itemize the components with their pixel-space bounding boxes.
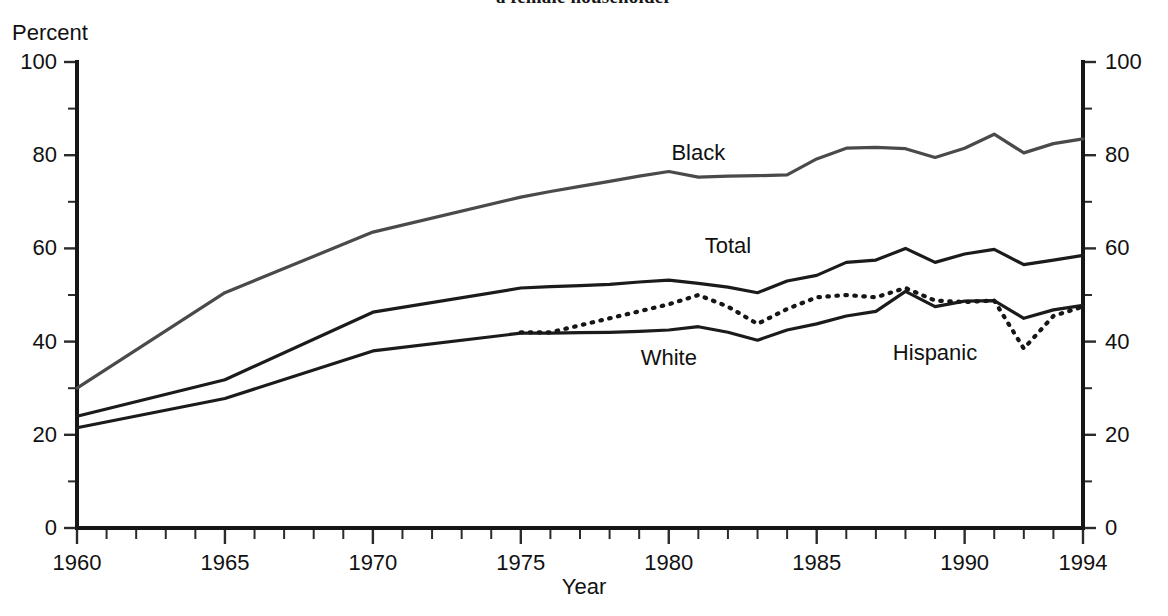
- x-axis-tick-label: 1960: [53, 550, 102, 576]
- axis-spines: [77, 62, 1083, 528]
- y-axis-right-tick-label: 20: [1105, 422, 1129, 448]
- x-axis-tick-label: 1970: [348, 550, 397, 576]
- series-label-hispanic: Hispanic: [893, 340, 977, 366]
- series-label-white: White: [641, 345, 697, 371]
- series-line-hispanic: [521, 288, 1083, 349]
- y-axis-right-tick-label: 100: [1105, 49, 1142, 75]
- y-axis-tick-label: 80: [33, 142, 57, 168]
- x-axis-title: Year: [0, 574, 1168, 600]
- x-axis-tick-label: 1994: [1059, 550, 1108, 576]
- y-axis-tick-label: 20: [33, 422, 57, 448]
- y-axis-tick-label: 0: [45, 515, 57, 541]
- x-axis-tick-label: 1990: [940, 550, 989, 576]
- y-axis-right-tick-label: 60: [1105, 235, 1129, 261]
- y-axis-right-tick-label: 80: [1105, 142, 1129, 168]
- x-axis-tick-label: 1980: [644, 550, 693, 576]
- y-axis-right-tick-label: 40: [1105, 329, 1129, 355]
- y-axis-tick-label: 100: [20, 49, 57, 75]
- x-axis-tick-label: 1975: [496, 550, 545, 576]
- x-axis-tick-label: 1985: [792, 550, 841, 576]
- y-axis-right-tick-label: 0: [1105, 515, 1117, 541]
- series-label-total: Total: [705, 233, 751, 259]
- y-axis-tick-label: 40: [33, 329, 57, 355]
- chart-container: a female householder Percent 02040608010…: [0, 0, 1168, 616]
- series-label-black: Black: [671, 140, 725, 166]
- plot-area: [0, 0, 1168, 616]
- x-axis-tick-label: 1965: [200, 550, 249, 576]
- y-axis-tick-label: 60: [33, 235, 57, 261]
